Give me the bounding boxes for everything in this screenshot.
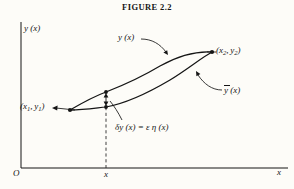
curve-y-upper [70,52,212,110]
lower-curve-label: y (x) [224,86,240,95]
figure-container: FIGURE 2.2 y (x) [0,0,294,189]
overbar-group: y (x) [224,86,240,95]
variation-arrow-head-up [104,93,109,97]
y-axis-label: y (x) [24,24,40,33]
point-1-y-subscript: 1 [38,105,41,112]
variation-label: δy (x) = ε η (x) [115,123,169,132]
leader-arrow-p1-label [52,105,58,110]
origin-label: O [13,169,20,178]
x-axis-label: x [277,168,281,177]
point-1-x-subscript: 1 [27,105,30,112]
overbar-accent [224,85,230,86]
plot-canvas [0,0,294,189]
curve-ybar-lower [70,52,212,110]
leader-line-y-label [141,39,166,52]
leader-line-ybar-label [198,75,222,90]
point-2-y-subscript: 2 [234,49,237,56]
x-tick-label: x [104,170,108,179]
variation-arrow-head-down [104,102,109,106]
upper-curve-label: y (x) [118,33,134,42]
point-2-label: (x2, y2) [216,46,241,55]
point-2-x-subscript: 2 [223,49,226,56]
point-1-label: (x1, y1) [20,102,45,111]
lower-curve-label-text: y (x) [224,85,240,95]
